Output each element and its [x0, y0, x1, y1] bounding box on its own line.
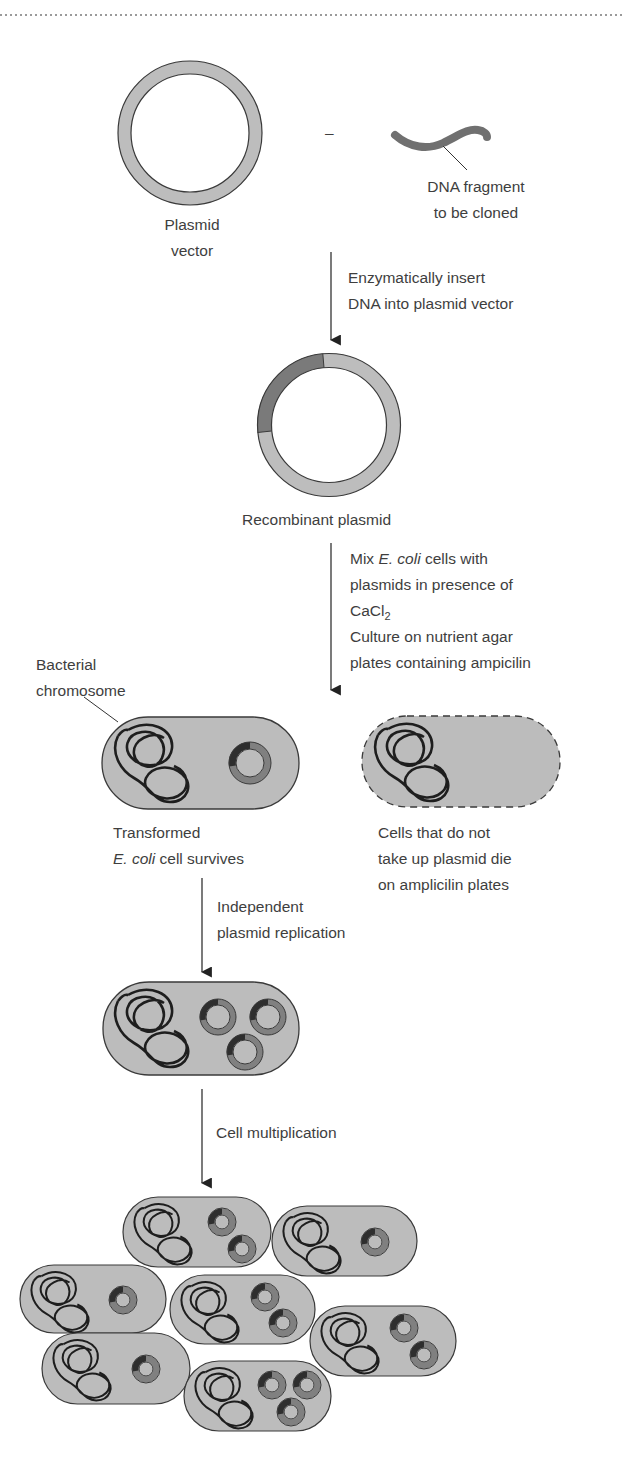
colony-cell [42, 1333, 190, 1404]
recombinant-plasmid-label: Recombinant plasmid [242, 507, 391, 533]
transformed-cell-label: Transformed E. coli cell survives [113, 820, 244, 872]
plasmid-in-cell-icon [208, 1208, 236, 1236]
untransformed-cell-label: Cells that do not take up plasmid die on… [378, 820, 512, 898]
operator-symbol: – [325, 120, 334, 146]
plasmid-in-cell-icon [293, 1371, 321, 1399]
cell-colony [20, 1197, 456, 1431]
plasmid-in-cell-icon [269, 1309, 297, 1337]
colony-cell [123, 1197, 271, 1267]
plasmid-in-cell-icon [361, 1228, 389, 1256]
plasmid-in-cell-icon [228, 1235, 256, 1263]
dna-fragment-icon [395, 130, 487, 170]
step2-label: Mix E. coli cells with plasmids in prese… [350, 546, 531, 676]
bacterial-chromosome-label: Bacterial chromosome [36, 652, 126, 704]
plasmid-vector-label: Plasmid vector [164, 212, 219, 264]
plasmid-in-cell-icon [410, 1341, 438, 1369]
plasmid-in-cell-icon [132, 1355, 160, 1383]
colony-cell [310, 1306, 456, 1376]
colony-cell [20, 1265, 166, 1333]
colony-cell [170, 1275, 315, 1344]
plasmid-in-cell-icon [390, 1314, 418, 1342]
plasmid-in-cell-icon [229, 742, 271, 784]
plasmid-in-cell-icon [251, 1283, 279, 1311]
plasmid-vector-icon [118, 61, 262, 205]
colony-cell [184, 1361, 331, 1431]
step1-label: Enzymatically insert DNA into plasmid ve… [348, 265, 513, 317]
untransformed-cell [362, 716, 560, 807]
transformed-cell [102, 717, 299, 809]
plasmid-in-cell-icon [277, 1398, 305, 1426]
plasmid-in-cell-icon [258, 1371, 286, 1399]
recombinant-plasmid-icon [258, 354, 401, 497]
colony-cell [272, 1206, 417, 1276]
replicated-plasmid-cell [103, 982, 299, 1075]
dna-fragment-label: DNA fragment to be cloned [427, 174, 524, 226]
cloning-diagram [0, 0, 623, 1471]
step4-label: Cell multiplication [216, 1120, 337, 1146]
step3-label: Independent plasmid replication [217, 894, 345, 946]
plasmid-in-cell-icon [109, 1286, 137, 1314]
